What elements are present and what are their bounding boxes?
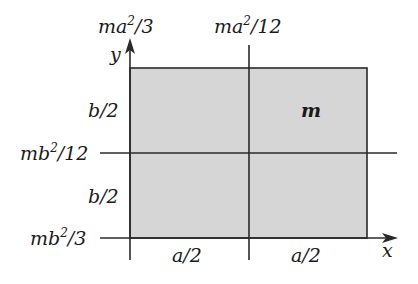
label-a-half-right: a/2 [291, 244, 321, 266]
plate-diagram: ma2/3 ma2/12 y x m b/2 mb2/12 b/2 mb2/3 … [0, 0, 418, 284]
label-mb2-over-12: mb2/12 [20, 141, 88, 164]
label-a-half-left: a/2 [172, 244, 202, 266]
label-b-half-upper: b/2 [88, 99, 119, 121]
label-mb2-over-3: mb2/3 [30, 226, 86, 249]
x-axis-label: x [382, 239, 393, 261]
label-ma2-over-12: ma2/12 [214, 14, 282, 37]
mass-label: m [301, 99, 321, 121]
label-ma2-over-3: ma2/3 [98, 14, 154, 37]
label-b-half-lower: b/2 [88, 185, 119, 207]
y-axis-label: y [109, 43, 121, 65]
